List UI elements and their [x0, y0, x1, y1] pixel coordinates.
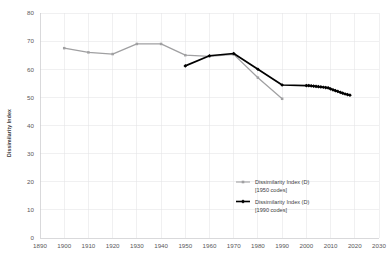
series-line-1950-codes: [64, 44, 282, 99]
y-tick-label: 30: [27, 150, 34, 157]
x-tick-label: 2020: [348, 242, 362, 249]
x-tick-label: 1910: [82, 242, 96, 249]
legend-label-secondary: [1990 codes]: [255, 207, 287, 213]
dissimilarity-index-chart: 01020304050607080 1890190019101920193019…: [0, 0, 390, 265]
x-tick-labels: 1890190019101920193019401950196019701980…: [33, 242, 386, 249]
data-point-marker: [136, 43, 139, 46]
y-axis-title-text: Dissimilarity Index: [6, 109, 12, 157]
data-point-marker: [257, 76, 260, 79]
chart-canvas: 01020304050607080 1890190019101920193019…: [0, 0, 390, 265]
x-tick-label: 2030: [372, 242, 386, 249]
y-axis-title: Dissimilarity Index: [6, 109, 12, 157]
x-tick-label: 1890: [33, 242, 47, 249]
x-tick-label: 1980: [251, 242, 265, 249]
data-point-marker: [111, 53, 114, 56]
y-tick-label: 60: [27, 66, 34, 73]
y-tick-label: 80: [27, 9, 34, 16]
x-tick-label: 2000: [299, 242, 313, 249]
grid-layer: [40, 13, 379, 238]
data-point-marker: [184, 54, 187, 57]
series-layer: [63, 43, 352, 100]
x-tick-label: 1960: [203, 242, 217, 249]
x-tick-label: 2010: [324, 242, 338, 249]
y-tick-label: 50: [27, 94, 34, 101]
y-tick-label: 70: [27, 37, 34, 44]
legend-swatch-marker: [242, 181, 245, 184]
y-tick-label: 0: [31, 234, 35, 241]
data-point-marker: [281, 98, 284, 101]
y-tick-label: 40: [27, 122, 34, 129]
x-tick-label: 1900: [57, 242, 71, 249]
legend-label-primary: Dissimilarity Index (D): [255, 199, 310, 205]
x-tick-label: 1930: [130, 242, 144, 249]
data-point-marker: [87, 51, 90, 54]
legend-label-primary: Dissimilarity Index (D): [255, 179, 310, 185]
y-tick-labels: 01020304050607080: [27, 9, 34, 241]
data-point-marker: [160, 43, 163, 46]
x-tick-label: 1970: [227, 242, 241, 249]
legend-label-secondary: [1950 codes]: [255, 187, 287, 193]
data-point-marker: [348, 93, 352, 97]
y-tick-label: 10: [27, 206, 34, 213]
x-tick-label: 1920: [106, 242, 120, 249]
x-tick-label: 1940: [154, 242, 168, 249]
data-point-marker: [63, 47, 66, 50]
x-tick-label: 1950: [178, 242, 192, 249]
y-tick-label: 20: [27, 178, 34, 185]
legend-swatch-marker: [241, 199, 245, 203]
legend: Dissimilarity Index (D)[1950 codes]Dissi…: [236, 179, 310, 213]
x-tick-label: 1990: [275, 242, 289, 249]
